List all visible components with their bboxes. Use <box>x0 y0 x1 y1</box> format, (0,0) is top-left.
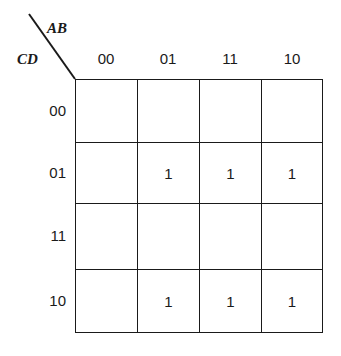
cell-r2-c2 <box>199 203 262 270</box>
kmap-grid: 1 1 1 1 1 1 <box>75 79 323 333</box>
cell-r2-c0 <box>75 203 138 270</box>
column-label-00: 00 <box>75 50 137 67</box>
row-variables-label: CD <box>17 51 38 68</box>
cell-r0-c0 <box>75 79 138 143</box>
cell-r3-c2: 1 <box>199 269 262 333</box>
cell-r0-c3 <box>261 79 323 143</box>
row-label-01: 01 <box>26 164 66 181</box>
cell-r0-c2 <box>199 79 262 143</box>
row-label-10: 10 <box>26 292 66 309</box>
cell-r1-c3: 1 <box>261 142 323 204</box>
cell-r2-c3 <box>261 203 323 270</box>
cell-r0-c1 <box>137 79 200 143</box>
cell-r1-c2: 1 <box>199 142 262 204</box>
row-label-11: 11 <box>26 227 66 244</box>
column-label-01: 01 <box>137 50 199 67</box>
column-label-11: 11 <box>199 50 261 67</box>
cell-r1-c0 <box>75 142 138 204</box>
cell-r2-c1 <box>137 203 200 270</box>
row-label-00: 00 <box>26 102 66 119</box>
cell-r3-c3: 1 <box>261 269 323 333</box>
column-label-10: 10 <box>261 50 323 67</box>
cell-r3-c1: 1 <box>137 269 200 333</box>
column-variables-label: AB <box>47 20 67 37</box>
cell-r1-c1: 1 <box>137 142 200 204</box>
cell-r3-c0 <box>75 269 138 333</box>
